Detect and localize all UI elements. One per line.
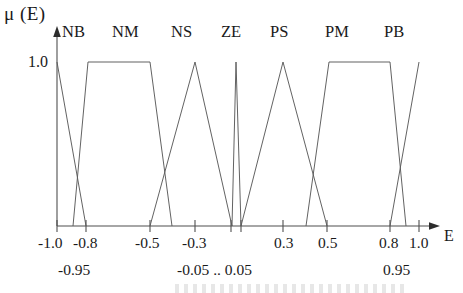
annotation-center-range: -0.05 .. 0.05 (177, 262, 252, 278)
x-tick-label-neg-0-5: -0.5 (135, 235, 160, 251)
mf-curve-ps (241, 62, 327, 226)
y-axis-arrow-icon (53, 26, 61, 37)
x-tick-label-0-3: 0.3 (274, 235, 293, 251)
mf-curve-ns (150, 62, 232, 226)
x-tick-label-0-5: 0.5 (318, 235, 337, 251)
mf-curve-pb (390, 62, 419, 226)
fuzzy-membership-figure: μ (E) 1.0 E NB NM NS ZE PS PM PB -1.0 -0… (0, 0, 463, 293)
x-tick-label-1-0: 1.0 (409, 235, 428, 251)
set-label-pm: PM (325, 24, 349, 41)
y-tick-label-1: 1.0 (28, 54, 48, 70)
mf-curve-ze (232, 62, 241, 226)
annotation-right-095: 0.95 (383, 262, 410, 278)
x-axis-title: E (444, 228, 454, 244)
set-label-ps: PS (270, 24, 288, 41)
y-axis-title: μ (E) (4, 4, 46, 23)
mf-curve-nb (57, 62, 86, 226)
mf-curve-pm (306, 62, 406, 226)
set-label-pb: PB (384, 24, 404, 41)
annotation-left-095: -0.95 (58, 262, 90, 278)
x-tick-label-neg-1-0: -1.0 (38, 235, 63, 251)
set-label-ns: NS (171, 24, 192, 41)
set-label-nb: NB (62, 24, 85, 41)
x-tick-label-neg-0-3: -0.3 (182, 235, 207, 251)
x-tick-label-0-8: 0.8 (379, 235, 398, 251)
set-label-ze: ZE (221, 24, 241, 41)
x-tick-label-neg-0-8: -0.8 (73, 235, 98, 251)
set-label-nm: NM (112, 24, 139, 41)
x-axis-arrow-icon (429, 222, 440, 230)
